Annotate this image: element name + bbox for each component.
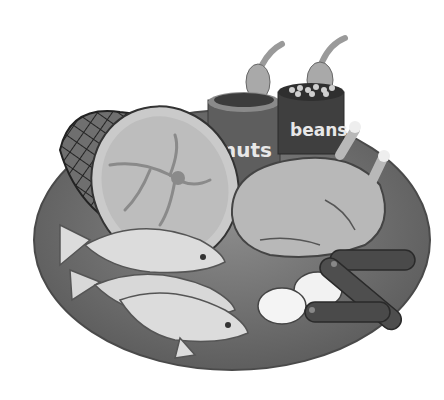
food-illustration: nuts beans: [0, 0, 444, 400]
beans-can: beans: [278, 38, 347, 154]
beans-label: beans: [290, 120, 347, 140]
